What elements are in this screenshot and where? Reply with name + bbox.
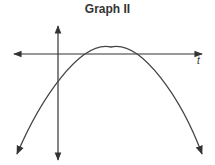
graph-canvas xyxy=(0,0,215,165)
parabola-curve xyxy=(17,46,202,154)
t-axis-label: t xyxy=(197,55,200,66)
